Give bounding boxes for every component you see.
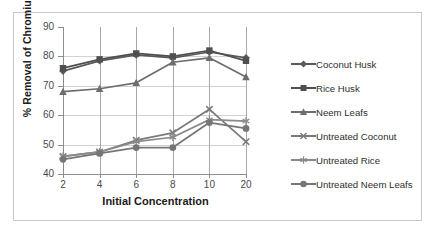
marker-asterisk <box>300 156 306 163</box>
y-axis-tick <box>58 56 63 57</box>
marker-circle <box>96 150 103 157</box>
marker-square <box>301 85 307 91</box>
marker-diamond <box>300 60 307 67</box>
legend-label: Neem Leafs <box>316 107 368 118</box>
legend-item-untreated-rice[interactable]: Untreated Rice <box>291 148 419 172</box>
legend-item-coconut-husk[interactable]: Coconut Husk <box>291 52 419 76</box>
legend-label: Untreated Coconut <box>316 131 397 142</box>
marker-circle <box>133 144 140 151</box>
series-untreated-neem-leafs <box>60 119 250 163</box>
series-neem-leafs <box>59 54 250 95</box>
series-rice-husk <box>60 47 249 71</box>
legend-item-untreated-coconut[interactable]: Untreated Coconut <box>291 124 419 148</box>
legend-item-neem-leafs[interactable]: Neem Leafs <box>291 100 419 124</box>
marker-cross <box>301 133 307 139</box>
y-axis-tick <box>58 86 63 87</box>
marker-circle <box>243 125 250 132</box>
y-axis-tick <box>58 145 63 146</box>
y-axis-tick <box>58 27 63 28</box>
legend-label: Rice Husk <box>316 83 360 94</box>
series-untreated-rice <box>60 116 250 160</box>
legend-item-rice-husk[interactable]: Rice Husk <box>291 76 419 100</box>
marker-circle <box>300 181 306 187</box>
marker-cross <box>243 138 249 144</box>
legend-label: Untreated Rice <box>316 155 380 166</box>
marker-square <box>60 65 66 71</box>
marker-circle <box>169 144 176 151</box>
x-axis-tick <box>136 174 137 178</box>
marker-triangle <box>300 108 307 115</box>
series-untreated-coconut <box>60 106 249 159</box>
legend-marker-diamond-icon <box>291 58 316 70</box>
x-axis-tick <box>63 174 64 178</box>
marker-square <box>243 58 249 64</box>
legend-item-untreated-neem-leafs[interactable]: Untreated Neem Leafs <box>291 172 419 196</box>
marker-triangle <box>242 73 250 80</box>
marker-circle <box>60 156 67 163</box>
marker-circle <box>206 119 213 126</box>
x-axis-tick <box>173 174 174 178</box>
marker-cross <box>206 106 212 112</box>
legend-label: Untreated Neem Leafs <box>316 179 413 190</box>
legend-marker-square-icon <box>291 82 316 94</box>
legend-marker-circle-icon <box>291 178 316 190</box>
marker-square <box>133 50 139 56</box>
x-axis-tick <box>100 174 101 178</box>
chart-figure: % Removal of Chromium Initial Concentrat… <box>0 0 439 234</box>
marker-square <box>96 56 102 62</box>
x-axis-tick <box>209 174 210 178</box>
y-axis-tick <box>58 115 63 116</box>
legend-marker-triangle-icon <box>291 106 316 118</box>
legend-marker-cross-icon <box>291 130 316 142</box>
legend-marker-asterisk-icon <box>291 154 316 166</box>
chart-legend: Coconut HuskRice HuskNeem LeafsUntreated… <box>291 52 419 196</box>
marker-square <box>206 47 212 53</box>
legend-label: Coconut Husk <box>316 59 376 70</box>
x-axis-tick <box>246 174 247 178</box>
